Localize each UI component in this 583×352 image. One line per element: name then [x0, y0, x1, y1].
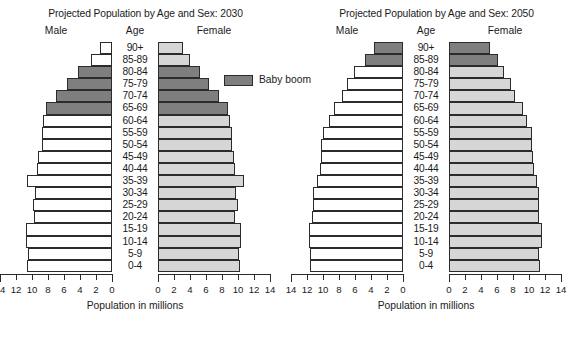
- female-bar-cell: [158, 163, 270, 175]
- female-bar-cell: [449, 115, 561, 127]
- age-group-label: 50-54: [403, 139, 449, 151]
- female-bar-cell: [158, 236, 270, 248]
- age-group-label: 30-34: [112, 187, 158, 199]
- male-bar: [46, 102, 112, 114]
- female-bar: [449, 90, 515, 102]
- age-group-label: 45-49: [112, 151, 158, 163]
- tick-labels-female: 02468101214: [158, 283, 270, 297]
- age-group-label: 15-19: [403, 223, 449, 235]
- bar-row: 30-34: [291, 187, 582, 199]
- male-bar: [317, 175, 403, 187]
- male-bar-cell: [291, 248, 403, 260]
- age-group-label: 10-14: [403, 236, 449, 248]
- axis-female: [449, 274, 561, 283]
- legend-label: Baby boom: [259, 74, 311, 86]
- female-bar: [158, 175, 244, 187]
- female-bar-cell: [449, 66, 561, 78]
- male-bar-cell: [291, 199, 403, 211]
- male-bar-cell: [291, 127, 403, 139]
- axis-tick: [371, 274, 372, 280]
- female-bar-cell: [449, 151, 561, 163]
- bar-row: 45-49: [0, 151, 291, 163]
- male-bar-cell: [0, 163, 112, 175]
- tick-labels-female: 02468101214: [449, 283, 561, 297]
- male-bar: [42, 127, 112, 139]
- bar-rows-2050: 90+85-8980-8475-7970-7465-6960-6455-5950…: [291, 42, 582, 272]
- axis-tick-label: 14: [0, 283, 5, 296]
- axis-tick: [497, 274, 498, 280]
- female-bar-cell: [449, 102, 561, 114]
- female-bar: [449, 78, 511, 90]
- axis-tick-label: 4: [187, 283, 192, 296]
- male-bar-cell: [291, 102, 403, 114]
- male-bar: [321, 151, 403, 163]
- male-bar-cell: [0, 236, 112, 248]
- axis-tick-label: 10: [524, 283, 535, 296]
- male-bar: [309, 236, 403, 248]
- male-bar-cell: [0, 175, 112, 187]
- male-bar: [27, 175, 112, 187]
- bar-row: 40-44: [291, 163, 582, 175]
- tick-labels-2050: 14121086420 02468101214: [291, 283, 582, 297]
- female-bar: [449, 127, 532, 139]
- axis-tick-label: 0: [155, 283, 160, 296]
- bar-row: 10-14: [291, 236, 582, 248]
- female-bar: [158, 115, 230, 127]
- male-bar-cell: [291, 151, 403, 163]
- male-bar: [320, 163, 403, 175]
- axis-tick: [449, 274, 450, 282]
- female-bar: [158, 187, 236, 199]
- bar-row: 20-24: [0, 211, 291, 223]
- age-group-label: 55-59: [112, 127, 158, 139]
- female-bar: [158, 90, 219, 102]
- axes-2050: [291, 274, 582, 283]
- male-bar: [310, 248, 403, 260]
- age-group-label: 10-14: [112, 236, 158, 248]
- axis-tick-label: 12: [540, 283, 551, 296]
- female-bar-cell: [158, 199, 270, 211]
- axis-tick-label: 2: [171, 283, 176, 296]
- axis-tick-label: 6: [61, 283, 66, 296]
- bar-row: 85-89: [0, 54, 291, 66]
- female-bar: [158, 223, 241, 235]
- age-group-label: 50-54: [112, 139, 158, 151]
- female-bar-cell: [158, 223, 270, 235]
- female-bar-cell: [449, 211, 561, 223]
- male-bar: [321, 139, 403, 151]
- female-bar-cell: [449, 223, 561, 235]
- male-bar-cell: [0, 78, 112, 90]
- female-bar: [449, 175, 537, 187]
- female-bar: [158, 54, 190, 66]
- axis-tick: [545, 274, 546, 280]
- bar-row: 90+: [0, 42, 291, 54]
- female-bar-cell: [158, 102, 270, 114]
- bar-row: 50-54: [291, 139, 582, 151]
- female-bar: [158, 211, 235, 223]
- female-bar-cell: [449, 78, 561, 90]
- male-bar-cell: [0, 102, 112, 114]
- bar-row: 35-39: [0, 175, 291, 187]
- column-headings-2050: Male Age Female: [291, 20, 582, 38]
- female-bar-cell: [449, 127, 561, 139]
- axis-tick: [64, 274, 65, 280]
- axis-tick-label: 10: [233, 283, 244, 296]
- male-bar: [67, 78, 112, 90]
- female-bar: [449, 102, 523, 114]
- axis-tick-label: 10: [27, 283, 38, 296]
- axis-tick-label: 4: [77, 283, 82, 296]
- female-bar-cell: [449, 199, 561, 211]
- female-bar-cell: [449, 260, 561, 272]
- female-bar-cell: [158, 127, 270, 139]
- heading-female: Female: [449, 24, 561, 38]
- female-bar-cell: [449, 139, 561, 151]
- axis-tick-label: 12: [249, 283, 260, 296]
- female-bar: [158, 260, 240, 272]
- female-bar-cell: [449, 54, 561, 66]
- male-bar: [374, 42, 403, 54]
- axis-tick: [403, 274, 404, 282]
- bar-row: 65-69: [291, 102, 582, 114]
- male-bar: [365, 54, 403, 66]
- male-bar: [28, 248, 112, 260]
- bar-row: 70-74: [291, 90, 582, 102]
- female-bar: [449, 260, 540, 272]
